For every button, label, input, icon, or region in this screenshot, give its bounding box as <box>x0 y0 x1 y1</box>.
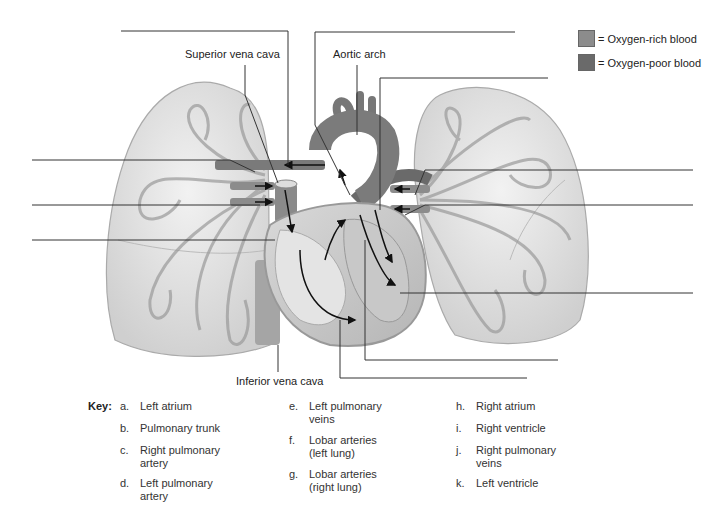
key-item-d: d.Left pulmonary artery <box>120 477 213 503</box>
key-item-k: k.Left ventricle <box>456 477 538 490</box>
key-title: Key: <box>88 400 112 412</box>
key-item-b: b.Pulmonary trunk <box>120 422 220 435</box>
right-lung <box>106 82 270 356</box>
key-letter: e. <box>289 400 309 426</box>
legend-label: = Oxygen-poor blood <box>598 57 701 69</box>
key-letter: c. <box>120 444 140 470</box>
key-text: Right pulmonary veins <box>476 444 556 470</box>
key-letter: k. <box>456 477 476 490</box>
key-text: Lobar arteries (left lung) <box>309 434 377 460</box>
key-item-h: h.Right atrium <box>456 400 535 413</box>
key-letter: h. <box>456 400 476 413</box>
key-text: Lobar arteries (right lung) <box>309 468 377 494</box>
key-item-e: e.Left pulmonary veins <box>289 400 382 426</box>
legend-oxygen-rich: = Oxygen-rich blood <box>578 30 697 47</box>
key-letter: i. <box>456 422 476 435</box>
key-text: Pulmonary trunk <box>140 422 220 435</box>
key-letter: f. <box>289 434 309 460</box>
key-text: Right atrium <box>476 400 535 413</box>
key-item-a: a.Left atrium <box>120 400 192 413</box>
key-text: Left ventricle <box>476 477 538 490</box>
key-text: Right ventricle <box>476 422 546 435</box>
key-item-f: f.Lobar arteries (left lung) <box>289 434 377 460</box>
key-letter: d. <box>120 477 140 503</box>
key-item-c: c.Right pulmonary artery <box>120 444 220 470</box>
oxygen-poor-swatch <box>578 54 595 71</box>
left-lung <box>414 87 588 343</box>
key-letter: b. <box>120 422 140 435</box>
key-item-j: j.Right pulmonary veins <box>456 444 556 470</box>
key-text: Left pulmonary veins <box>309 400 382 426</box>
key-letter: j. <box>456 444 476 470</box>
label-superior-vena-cava: Superior vena cava <box>185 48 280 60</box>
key-text: Left pulmonary artery <box>140 477 213 503</box>
oxygen-rich-swatch <box>578 30 595 47</box>
key-letter: g. <box>289 468 309 494</box>
key-text: Right pulmonary artery <box>140 444 220 470</box>
legend-oxygen-poor: = Oxygen-poor blood <box>578 54 701 71</box>
label-inferior-vena-cava: Inferior vena cava <box>236 375 323 387</box>
key-text: Left atrium <box>140 400 192 413</box>
heart <box>255 95 426 346</box>
pulmonary-circulation-diagram: Superior vena cava Aortic arch Inferior … <box>0 0 726 520</box>
key-letter: a. <box>120 400 140 413</box>
legend-label: = Oxygen-rich blood <box>598 33 697 45</box>
key-item-g: g.Lobar arteries (right lung) <box>289 468 377 494</box>
label-aortic-arch: Aortic arch <box>333 48 386 60</box>
key-item-i: i.Right ventricle <box>456 422 546 435</box>
